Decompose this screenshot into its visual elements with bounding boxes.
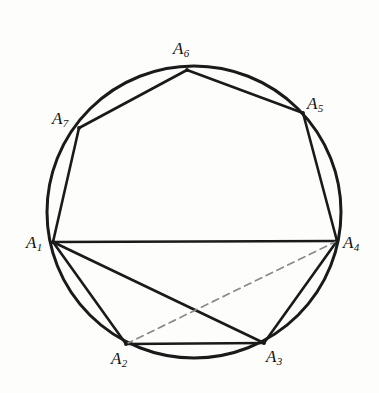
vertex-label-a3: A3 bbox=[266, 348, 282, 367]
side-A5-A4 bbox=[303, 113, 337, 241]
vertex-label-a5: A5 bbox=[307, 95, 323, 114]
vertex-dot-a4 bbox=[335, 239, 339, 243]
vertex-label-letter-a2: A bbox=[111, 349, 121, 368]
side-A1-A7 bbox=[53, 128, 79, 242]
vertex-dot-a2 bbox=[124, 342, 128, 346]
diagram-canvas bbox=[0, 0, 379, 393]
vertex-label-a1: A1 bbox=[26, 234, 42, 253]
vertex-label-letter-a7: A bbox=[52, 109, 62, 128]
vertex-label-subscript-a7: 7 bbox=[63, 117, 69, 129]
vertex-label-a2: A2 bbox=[111, 350, 127, 369]
vertex-label-subscript-a4: 4 bbox=[354, 241, 360, 253]
chord-A1-A4 bbox=[53, 241, 337, 242]
vertex-dot-a5 bbox=[301, 111, 305, 115]
vertex-label-subscript-a5: 5 bbox=[318, 102, 324, 114]
vertex-dot-a7 bbox=[77, 126, 81, 130]
vertex-label-letter-a4: A bbox=[343, 233, 353, 252]
edge-layer bbox=[53, 70, 337, 344]
vertex-label-a6: A6 bbox=[173, 40, 189, 59]
vertex-dot-a6 bbox=[185, 68, 189, 72]
vertex-dot-a1 bbox=[51, 240, 55, 244]
vertex-label-subscript-a6: 6 bbox=[184, 47, 190, 59]
side-A2-A3 bbox=[126, 343, 264, 344]
vertex-label-letter-a6: A bbox=[173, 39, 183, 58]
vertex-label-subscript-a3: 3 bbox=[277, 355, 283, 367]
vertex-label-letter-a3: A bbox=[266, 347, 276, 366]
vertex-label-letter-a5: A bbox=[307, 94, 317, 113]
vertex-label-letter-a1: A bbox=[26, 233, 36, 252]
vertex-label-subscript-a2: 2 bbox=[122, 357, 128, 369]
vertex-label-a4: A4 bbox=[343, 234, 359, 253]
side-A3-A4 bbox=[264, 241, 337, 343]
vertex-label-a7: A7 bbox=[52, 110, 68, 129]
side-A1-A2 bbox=[53, 242, 126, 344]
vertex-label-subscript-a1: 1 bbox=[37, 241, 43, 253]
geometry-figure: A1A2A3A4A5A6A7 bbox=[0, 0, 379, 393]
vertex-dot-a3 bbox=[262, 341, 266, 345]
